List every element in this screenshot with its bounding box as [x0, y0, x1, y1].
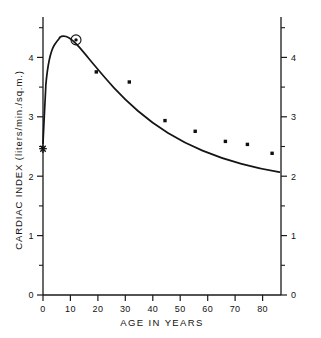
y-tick-label: 4: [29, 53, 34, 63]
y-right-tick-label: 4: [291, 53, 296, 63]
data-point: [194, 130, 197, 133]
x-tick-label: 60: [202, 304, 213, 314]
y-tick-label: 1: [29, 231, 34, 241]
y-right-tick-label: 3: [291, 112, 296, 122]
y-axis-title: CARDIAC INDEX (liters/min./sq.m.): [13, 70, 24, 250]
data-point: [270, 152, 273, 155]
left-axis-tick-labels: 0 1 2 3 4: [29, 53, 34, 301]
left-axis-ticks: [37, 28, 43, 295]
right-axis-tick-labels: 0 1 2 3 4: [291, 53, 296, 301]
x-tick-label: 10: [65, 304, 76, 314]
x-axis-ticks: [43, 295, 263, 301]
axis-lines: [43, 17, 281, 295]
x-tick-label: 50: [175, 304, 186, 314]
x-axis-title: AGE IN YEARS: [120, 317, 204, 328]
cardiac-index-figure: 0 1 2 3 4 0 1 2 3 4 0 10 20 30 40 50 60 …: [0, 0, 321, 338]
y-right-tick-label: 1: [291, 231, 296, 241]
x-axis-tick-labels: 0 10 20 30 40 50 60 70 80: [40, 304, 268, 314]
x-tick-label: 0: [40, 304, 45, 314]
x-tick-label: 20: [92, 304, 103, 314]
fitted-curve: [43, 36, 280, 172]
right-axis-ticks: [281, 28, 287, 295]
x-tick-label: 70: [230, 304, 241, 314]
y-right-tick-label: 0: [291, 290, 296, 300]
y-right-tick-label: 2: [291, 172, 296, 182]
x-tick-label: 80: [257, 304, 268, 314]
x-tick-label: 30: [120, 304, 131, 314]
y-tick-label: 0: [29, 290, 34, 300]
highlight-center-dot: [74, 38, 77, 41]
y-tick-label: 2: [29, 172, 34, 182]
chart-canvas: 0 1 2 3 4 0 1 2 3 4 0 10 20 30 40 50 60 …: [0, 0, 321, 338]
newborn-star-marker: [39, 145, 47, 153]
y-tick-label: 3: [29, 112, 34, 122]
data-point: [246, 143, 249, 146]
data-point: [224, 140, 227, 143]
data-point: [95, 70, 98, 73]
x-tick-label: 40: [147, 304, 158, 314]
data-point: [163, 119, 166, 122]
data-point: [128, 80, 131, 83]
